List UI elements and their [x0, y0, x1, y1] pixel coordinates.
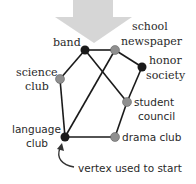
- start-note: vertex used to start: [78, 162, 182, 174]
- label-language: language: [12, 123, 61, 135]
- label-band: band: [53, 36, 81, 49]
- vertex-language-club: [61, 133, 70, 142]
- curved-arrow-icon: [59, 148, 74, 167]
- label-school: school: [132, 20, 168, 33]
- graph-coloring-diagram: band school newspaper honor society scie…: [0, 0, 196, 184]
- edge-newspaper-honor: [115, 50, 142, 67]
- label-council: council: [138, 110, 175, 122]
- vertex-school-newspaper: [111, 46, 120, 55]
- label-society: society: [146, 69, 186, 82]
- label-newspaper: newspaper: [121, 35, 183, 48]
- label-honor: honor: [149, 54, 182, 67]
- diagram-canvas: band school newspaper honor society scie…: [0, 0, 196, 184]
- edge-newspaper-language: [65, 50, 115, 137]
- vertex-student-council: [123, 98, 132, 107]
- label-science: science: [16, 66, 58, 79]
- vertex-drama-club: [111, 133, 120, 142]
- edge-band-council: [85, 50, 127, 102]
- label-student: student: [134, 96, 174, 108]
- arrowhead-icon: [57, 143, 64, 151]
- label-science-club: club: [25, 80, 49, 93]
- label-drama-club: drama club: [122, 131, 182, 143]
- edge-band-science: [60, 50, 85, 79]
- label-language-club: club: [26, 137, 48, 149]
- vertex-band: [81, 46, 90, 55]
- edges: [60, 50, 142, 137]
